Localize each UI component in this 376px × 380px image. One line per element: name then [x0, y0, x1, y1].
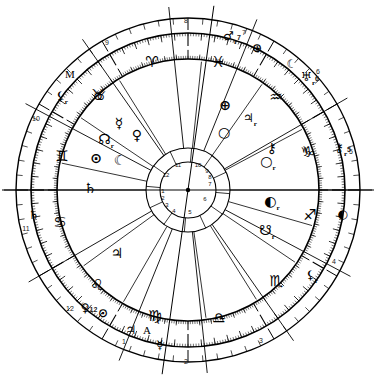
house-number-text: 9 [105, 39, 109, 46]
planet-glyph: ⊕ [219, 97, 231, 113]
inner-house-number-2: 2 [161, 195, 164, 201]
planet-glyph: ⊙ [90, 150, 102, 166]
zodiac-glyph: ♌ [90, 276, 103, 294]
house-number-text: 11 [175, 162, 181, 168]
house-number-text: 8 [208, 174, 211, 180]
house-number-text: 3 [165, 202, 168, 208]
planet-uranus: ○ [218, 125, 230, 139]
planet-glyph: ♄ [29, 208, 40, 222]
zodiac-sign-aries: ♈ [145, 55, 158, 70]
planet-glyph: ◐ [264, 193, 276, 209]
planet-glyph: ☊ [98, 131, 110, 147]
outer-house-number-12: 12 [66, 305, 74, 312]
retrograde-marker: r [315, 277, 318, 285]
planet-glyph: ○ [218, 124, 230, 140]
angle-ascendant: A [143, 325, 151, 336]
inner-house-number-3: 3 [165, 202, 168, 208]
planet-venus: ♀ [132, 128, 142, 142]
house-number-text: 5 [349, 148, 353, 155]
outer-planet-jupiter-out: ♃r [243, 112, 257, 127]
retrograde-marker: r [111, 142, 114, 150]
planet-glyph: ○ [260, 153, 272, 169]
planet-glyph: ♄ [84, 180, 97, 196]
zodiac-sign-sagittarius: ♐ [303, 208, 316, 223]
planet-glyph: ☾ [114, 152, 127, 168]
outer-house-number-10: 10 [32, 115, 40, 122]
retrograde-marker: r [65, 98, 68, 106]
zodiac-glyph: ♐ [303, 206, 316, 224]
planet-glyph: ◐ [338, 207, 348, 221]
planet-venus-outer: ○r [260, 154, 275, 172]
zodiac-sign-virgo: ♍ [148, 309, 161, 324]
outer-planet-capricorn-o: ♑ [301, 146, 312, 158]
house-number: 6 [315, 75, 319, 82]
retrograde-marker: r [254, 120, 257, 128]
inner-house-number-5: 5 [188, 209, 191, 215]
planet-north-node: ☊r [98, 132, 114, 150]
planet-glyph: ☿ [115, 115, 124, 131]
house-number-text: 10 [32, 115, 40, 122]
zodiac-sign-pisces: ♓ [211, 55, 224, 70]
zodiac-sign-scorpio: ♏ [269, 274, 282, 289]
retrograde-marker: r [272, 233, 275, 241]
planet-neptune: ⊕ [219, 98, 231, 112]
planet-glyph: ♃ [243, 111, 254, 125]
planet-saturn: ♄ [84, 181, 97, 195]
planet-glyph: ♃ [126, 323, 137, 337]
outer-house-number-8: 8 [184, 17, 188, 24]
house-number-text: 4 [172, 208, 175, 214]
outer-planet-lilith-out: ⚸r [306, 269, 318, 284]
zodiac-sign-cancer: ♋ [53, 215, 66, 230]
house-number-text: 8 [184, 17, 188, 24]
house-number-text: 7 [242, 29, 246, 36]
outer-planet-sun-out: ⊙ [98, 307, 108, 319]
zodiac-glyph: ♋ [53, 213, 66, 231]
house-number-text: 12 [66, 305, 74, 312]
outer-planet-mercury-out: ☿ [156, 339, 163, 351]
outer-planet-taurus-out: ♉ [96, 90, 107, 102]
planet-south-node: ☋r [259, 223, 275, 241]
house-number-text: 7 [208, 181, 211, 187]
planet-glyph: ⊕ [252, 41, 262, 55]
planet-glyph: ⚸ [56, 89, 65, 103]
zodiac-glyph: ♒ [269, 88, 282, 106]
house-number-text: 6 [203, 196, 206, 202]
angle-midheaven: M [65, 69, 75, 80]
house-number: 7 [237, 34, 241, 41]
outer-house-number-3: 3 [259, 337, 263, 344]
outer-planet-lilith-ul: ⚸r [56, 90, 68, 105]
house-number: 12 [90, 306, 98, 313]
house-number-text: 5 [188, 209, 191, 215]
planet-glyph: ☾ [287, 57, 298, 71]
outer-planet-pluto-out: ◐ [338, 208, 348, 220]
retrograde-marker: r [277, 204, 280, 212]
planet-glyph: ♅ [301, 70, 312, 84]
planet-glyph: ♀ [132, 127, 142, 143]
inner-house-number-8: 8 [208, 174, 211, 180]
planet-glyph: ♑ [301, 145, 312, 159]
zodiac-glyph: ♈ [145, 53, 158, 71]
outer-house-number-11: 11 [22, 225, 29, 232]
house-number-text: 11 [22, 225, 29, 232]
house-number-text: 10 [195, 162, 202, 168]
outer-planet-jupiter-asc: ♃ [126, 324, 137, 336]
outer-planet-saturn-out: ♄ [29, 209, 40, 221]
outer-house-number-5: 5 [349, 148, 353, 155]
house-number-text: 6 [316, 68, 320, 75]
zodiac-sign-aquarius: ♒ [269, 90, 282, 105]
planet-glyph: ☋ [259, 222, 271, 238]
zodiac-glyph: ♎ [212, 309, 225, 327]
outer-planet-neptune-out: ⊕ [252, 42, 262, 54]
inner-house-number-10: 10 [195, 162, 202, 168]
zodiac-sign-libra: ♎ [212, 311, 225, 326]
inner-house-number-11: 11 [175, 162, 181, 168]
planet-glyph: ☿ [156, 338, 163, 352]
zodiac-sign-gemini: ♊ [55, 149, 68, 164]
zodiac-sign-leo: ♌ [90, 278, 103, 293]
zodiac-glyph: ♓ [211, 53, 224, 71]
chart-center-dot [186, 188, 190, 192]
outer-planet-moon-out: ☾ [287, 58, 298, 70]
planet-jupiter: ♃ [111, 246, 124, 260]
planet-glyph: ♀ [81, 301, 90, 315]
planet-glyph: ⚷ [335, 141, 344, 155]
